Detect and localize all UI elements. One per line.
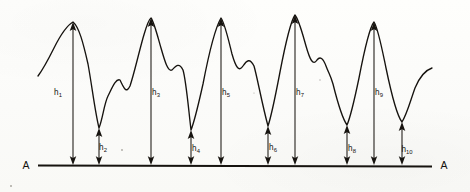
roughness-profile-figure: A A h1h2h3h4h5h6h7h8h9h10 [0, 0, 470, 192]
figure-canvas: A A h1h2h3h4h5h6h7h8h9h10 [0, 0, 470, 192]
measurement-labels-layer: h1h2h3h4h5h6h7h8h9h10 [54, 88, 413, 155]
axis-label-a-right: A [440, 159, 447, 171]
height-label-h2: h2 [99, 143, 107, 153]
height-label-h7: h7 [296, 88, 304, 98]
scan-speck [10, 185, 12, 187]
height-label-h4: h4 [192, 144, 201, 154]
height-label-h8: h8 [348, 144, 357, 154]
reference-line-a-a [38, 166, 432, 167]
profile-curve-group [38, 15, 432, 130]
height-label-h9: h9 [375, 88, 383, 98]
measurement-arrows-layer [70, 15, 406, 165]
height-label-h5: h5 [222, 88, 231, 98]
scan-speck [253, 92, 254, 93]
scan-speck [121, 149, 123, 151]
reference-line-group: A A [22, 159, 447, 171]
measurement-arrow-h1 [70, 22, 77, 165]
measurement-arrow-h10 [399, 122, 406, 165]
height-label-h6: h6 [269, 143, 278, 153]
height-label-h3: h3 [152, 88, 161, 98]
scan-speck [319, 79, 320, 80]
height-label-h10: h10 [401, 145, 413, 155]
surface-profile-curve [38, 15, 432, 130]
axis-label-a-left: A [22, 159, 29, 171]
height-label-h1: h1 [54, 88, 62, 98]
